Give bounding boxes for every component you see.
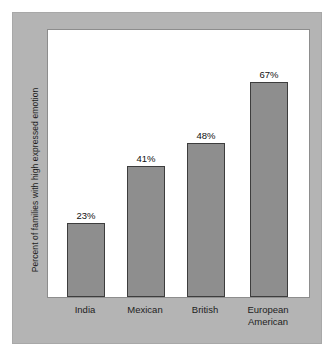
bar-group: 41% — [127, 28, 165, 297]
bar-group: 67% — [250, 28, 288, 297]
bar-group: 23% — [67, 28, 105, 297]
bar-value-label: 48% — [196, 130, 215, 141]
bar-value-label: 41% — [136, 153, 155, 164]
bars-container: 23%41%48%67% — [48, 30, 309, 297]
bar-chart-figure: Percent of families with high expressed … — [0, 0, 334, 356]
bar[interactable] — [250, 82, 288, 297]
bar[interactable] — [187, 143, 225, 297]
bar[interactable] — [67, 223, 105, 297]
plot-area: 23%41%48%67% — [47, 29, 310, 298]
y-axis-title: Percent of families with high expressed … — [26, 60, 44, 300]
bar-value-label: 67% — [259, 69, 278, 80]
bar-group: 48% — [187, 28, 225, 297]
bar-value-label: 23% — [76, 210, 95, 221]
x-axis-label-european: European American — [228, 304, 308, 327]
bar[interactable] — [127, 166, 165, 297]
